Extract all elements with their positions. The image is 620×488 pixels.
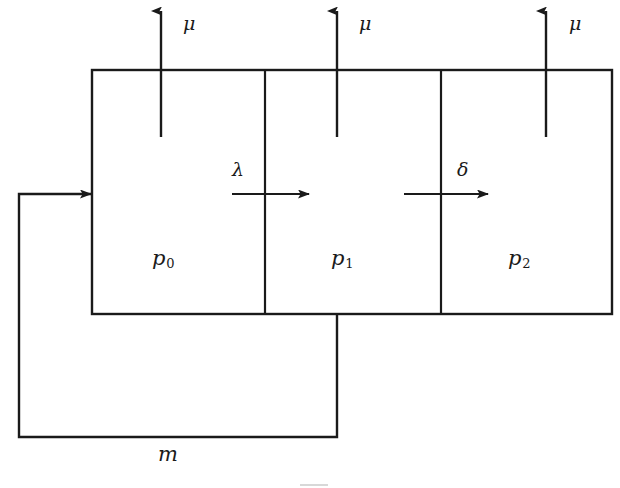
server-block-outline [92, 70, 612, 314]
lambda-label: λ [232, 160, 244, 179]
diagram-canvas [0, 0, 620, 488]
feedback-loop [19, 194, 337, 437]
feedback-label-m: m [158, 444, 178, 465]
state-label-p0-sub: 0 [165, 256, 174, 271]
delta-label: δ [457, 160, 468, 179]
feedback-path [19, 194, 337, 437]
mu-label-2: μ [569, 14, 581, 33]
state-label-p1-sub: 1 [344, 256, 353, 271]
state-label-p0-base: p [152, 246, 165, 270]
state-label-p1: p1 [331, 248, 354, 269]
mu-label-0: μ [183, 14, 195, 33]
cropped-caption-rule [300, 484, 328, 486]
state-label-p1-base: p [331, 246, 344, 270]
state-label-p0: p0 [152, 248, 175, 269]
state-label-p2-sub: 2 [521, 256, 530, 271]
state-label-p2-base: p [508, 246, 521, 270]
server-block-rect [92, 70, 612, 314]
state-label-p2: p2 [508, 248, 531, 269]
mu-label-1: μ [359, 14, 371, 33]
mu-arrow-group [161, 11, 546, 137]
queue-diagram: μ μ μ λ δ p0 p1 p2 m [0, 0, 620, 488]
